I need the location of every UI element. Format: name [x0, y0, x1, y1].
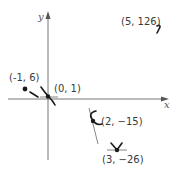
y-axis: y [37, 11, 51, 160]
point-label: (0, 1) [54, 83, 81, 94]
point-label: (2, −15) [101, 116, 143, 127]
point-5-126: (5, 126) [121, 16, 161, 33]
y-axis-arrow-icon [46, 11, 51, 19]
x-axis-label: x [164, 99, 170, 110]
point-2-neg15: (2, −15) [89, 108, 143, 144]
coordinate-graph: y x (-1, 6) (0, 1) (2, −15) (3, −26) (5,… [0, 0, 175, 172]
point-label: (3, −26) [102, 154, 144, 165]
point-label: (5, 126) [121, 16, 161, 27]
x-axis: x [8, 97, 170, 111]
point-3-neg26: (3, −26) [102, 143, 144, 165]
point-label: (-1, 6) [9, 72, 40, 83]
point-0-1: (0, 1) [40, 83, 81, 105]
y-axis-label: y [37, 11, 44, 22]
point-neg1-6: (-1, 6) [9, 72, 40, 97]
